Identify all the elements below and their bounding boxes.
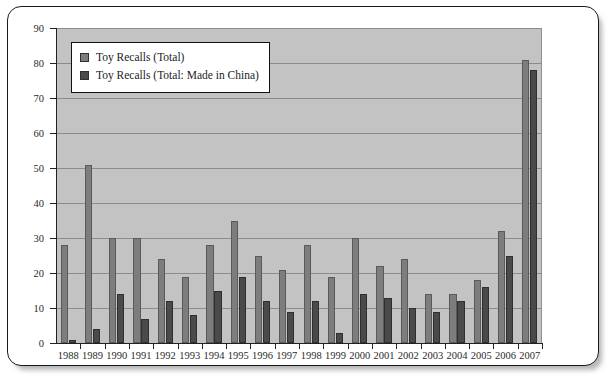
bar-china-2004: [457, 301, 464, 343]
y-tick-label: 70: [18, 93, 44, 104]
bar-china-2006: [506, 256, 513, 344]
bar-total-1991: [133, 238, 140, 343]
bar-total-2004: [449, 294, 456, 343]
x-tick-mark: [421, 344, 422, 349]
bar-china-1998: [312, 301, 319, 343]
y-tick-mark: [50, 98, 56, 99]
y-tick-mark: [50, 63, 56, 64]
legend-item-label: Toy Recalls (Total): [96, 49, 184, 67]
bar-total-1996: [255, 256, 262, 344]
bar-china-2007: [530, 70, 537, 343]
gridline: [56, 238, 541, 239]
bar-total-2006: [498, 231, 505, 343]
gridline: [56, 133, 541, 134]
y-tick-label: 20: [18, 268, 44, 279]
bar-china-1990: [117, 294, 124, 343]
x-tick-mark: [323, 344, 324, 349]
y-tick-mark: [50, 308, 56, 309]
bar-china-1997: [287, 312, 294, 344]
bar-total-2000: [352, 238, 359, 343]
x-tick-mark: [275, 344, 276, 349]
y-tick-mark: [50, 203, 56, 204]
x-tick-mark: [348, 344, 349, 349]
bar-total-1998: [304, 245, 311, 343]
bar-total-2001: [376, 266, 383, 343]
bar-total-2007: [522, 60, 529, 344]
gridline: [56, 203, 541, 204]
x-tick-mark: [469, 344, 470, 349]
bar-china-1996: [263, 301, 270, 343]
bar-china-1991: [141, 319, 148, 344]
bar-china-2002: [409, 308, 416, 343]
x-tick-label: 2007: [510, 350, 550, 361]
bar-china-1992: [166, 301, 173, 343]
x-tick-mark: [299, 344, 300, 349]
bar-china-1994: [214, 291, 221, 344]
bar-china-2001: [384, 298, 391, 344]
x-tick-mark: [493, 344, 494, 349]
bar-total-2002: [401, 259, 408, 343]
gridline: [56, 28, 541, 29]
bar-china-1995: [239, 277, 246, 344]
x-tick-mark: [250, 344, 251, 349]
bar-total-1994: [206, 245, 213, 343]
bar-china-1989: [93, 329, 100, 343]
y-tick-mark: [50, 133, 56, 134]
legend-item-label: Toy Recalls (Total: Made in China): [96, 67, 259, 85]
bar-china-1988: [69, 340, 76, 344]
bar-china-2005: [482, 287, 489, 343]
bar-total-1990: [109, 238, 116, 343]
legend-swatch-icon: [80, 53, 89, 62]
y-tick-mark: [50, 273, 56, 274]
y-tick-label: 60: [18, 128, 44, 139]
chart-legend: Toy Recalls (Total)Toy Recalls (Total: M…: [71, 42, 270, 93]
y-tick-mark: [50, 28, 56, 29]
bar-china-2000: [360, 294, 367, 343]
bar-total-2003: [425, 294, 432, 343]
y-tick-label: 0: [18, 338, 44, 349]
x-tick-mark: [105, 344, 106, 349]
x-tick-mark: [518, 344, 519, 349]
gridline: [56, 308, 541, 309]
x-tick-mark: [153, 344, 154, 349]
legend-swatch-icon: [80, 71, 89, 80]
x-tick-mark: [445, 344, 446, 349]
x-tick-mark: [178, 344, 179, 349]
y-tick-label: 30: [18, 233, 44, 244]
bar-total-1995: [231, 221, 238, 344]
y-tick-label: 90: [18, 23, 44, 34]
x-tick-mark: [372, 344, 373, 349]
bar-total-1993: [182, 277, 189, 344]
bar-total-1999: [328, 277, 335, 344]
bar-total-1988: [61, 245, 68, 343]
y-axis-line: [56, 28, 57, 344]
x-tick-mark: [396, 344, 397, 349]
x-tick-mark: [129, 344, 130, 349]
gridline: [56, 273, 541, 274]
y-tick-label: 50: [18, 163, 44, 174]
legend-item: Toy Recalls (Total): [80, 49, 259, 67]
bar-china-2003: [433, 312, 440, 344]
x-tick-mark: [80, 344, 81, 349]
y-tick-mark: [50, 238, 56, 239]
legend-item: Toy Recalls (Total: Made in China): [80, 67, 259, 85]
x-tick-mark: [226, 344, 227, 349]
x-tick-mark: [202, 344, 203, 349]
bar-china-1999: [336, 333, 343, 344]
bar-total-1992: [158, 259, 165, 343]
bar-total-2005: [474, 280, 481, 343]
gridline: [56, 98, 541, 99]
x-tick-mark: [542, 344, 543, 349]
bar-china-1993: [190, 315, 197, 343]
bar-total-1989: [85, 165, 92, 344]
y-tick-mark: [50, 343, 56, 344]
y-tick-label: 40: [18, 198, 44, 209]
gridline: [56, 168, 541, 169]
y-tick-mark: [50, 168, 56, 169]
y-tick-label: 10: [18, 303, 44, 314]
y-tick-label: 80: [18, 58, 44, 69]
bar-total-1997: [279, 270, 286, 344]
